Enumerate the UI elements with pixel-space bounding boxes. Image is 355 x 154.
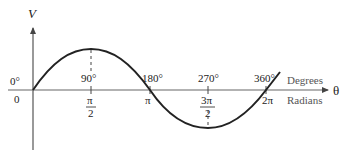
tick-270-degree-label: 270°	[198, 72, 219, 84]
radians-row-label: Radians	[287, 94, 322, 106]
tick-180-degree-label: 180°	[142, 72, 163, 84]
tick-360-radian-label: 2π	[262, 94, 274, 106]
origin-degree-label: 0°	[10, 75, 20, 87]
y-axis-label: V	[28, 6, 38, 21]
x-axis-label: θ	[333, 83, 339, 98]
tick-270-radian-num: 3π	[201, 94, 213, 106]
tick-90-radian-num: π	[87, 94, 93, 106]
tick-90-degree-label: 90°	[81, 72, 96, 84]
sine-curve	[33, 49, 280, 128]
tick-180-radian-label: π	[145, 94, 151, 106]
degrees-row-label: Degrees	[287, 74, 323, 86]
sine-wave-diagram: V θ 0° 0 90° π 2 180° π 270° 3π 2 360° 2…	[0, 0, 355, 154]
origin-radian-label: 0	[14, 93, 20, 105]
tick-270-radian-den: 2	[205, 107, 211, 119]
tick-360-degree-label: 360°	[254, 72, 275, 84]
tick-90-radian-den: 2	[88, 107, 94, 119]
